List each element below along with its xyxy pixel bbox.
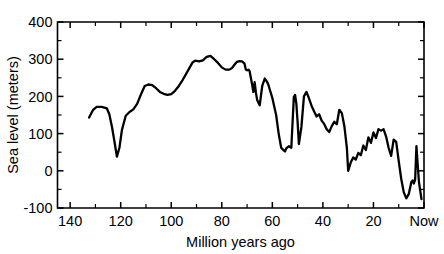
x-tick-label: 20 — [365, 213, 381, 229]
x-tick-label: 140 — [58, 213, 82, 229]
x-tick-label: 120 — [109, 213, 133, 229]
y-tick-label: 100 — [28, 126, 52, 142]
y-tick-label: 400 — [28, 14, 52, 30]
y-tick-label: -100 — [23, 200, 52, 216]
y-axis-title: Sea level (meters) — [5, 56, 21, 174]
y-tick-label: 0 — [44, 163, 52, 179]
figure-container: 4003002001000-100 14012010080604020Now M… — [0, 0, 444, 254]
x-tick-label: Now — [409, 213, 439, 229]
sea-level-chart: 4003002001000-100 14012010080604020Now M… — [0, 0, 444, 254]
x-axis-title: Million years ago — [186, 234, 295, 250]
x-tick-label: 60 — [264, 213, 280, 229]
x-tick-label: 40 — [315, 213, 331, 229]
x-tick-label: 80 — [214, 213, 230, 229]
y-tick-label: 300 — [28, 51, 52, 67]
y-tick-label: 200 — [28, 89, 52, 105]
x-tick-label: 100 — [159, 213, 183, 229]
